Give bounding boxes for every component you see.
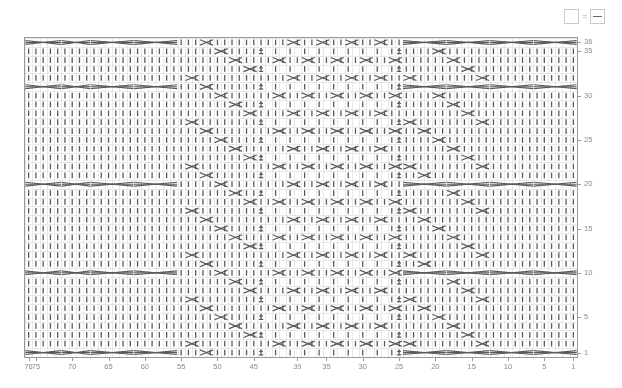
y-axis-tick bbox=[578, 273, 581, 274]
x-axis-label: 30 bbox=[359, 363, 367, 371]
x-axis-label: 60 bbox=[141, 363, 149, 371]
x-axis-tick bbox=[145, 358, 146, 361]
y-axis-tick bbox=[578, 317, 581, 318]
y-axis-label: 1 bbox=[584, 349, 588, 357]
x-axis-tick bbox=[297, 358, 298, 361]
knitting-chart[interactable] bbox=[24, 37, 578, 358]
x-axis-tick bbox=[472, 358, 473, 361]
y-axis-tick bbox=[578, 353, 581, 354]
x-axis-tick bbox=[181, 358, 182, 361]
x-axis-tick bbox=[544, 358, 545, 361]
y-axis-label: 10 bbox=[584, 269, 592, 277]
x-axis-label: 55 bbox=[177, 363, 185, 371]
x-axis-tick bbox=[435, 358, 436, 361]
x-axis-label: 5 bbox=[542, 363, 546, 371]
x-axis-label: 65 bbox=[104, 363, 112, 371]
x-axis-label: 76 bbox=[24, 363, 32, 371]
x-axis-label: 75 bbox=[32, 363, 40, 371]
y-axis-tick bbox=[578, 42, 581, 43]
y-axis-label: 36 bbox=[584, 39, 592, 47]
x-axis-tick bbox=[573, 358, 574, 361]
x-axis-label: 45 bbox=[250, 363, 258, 371]
square-with-dash-icon bbox=[590, 9, 605, 24]
y-axis-label: 30 bbox=[584, 92, 592, 100]
x-axis-label: 70 bbox=[68, 363, 76, 371]
y-axis-tick bbox=[578, 96, 581, 97]
chart-canvas[interactable] bbox=[25, 38, 577, 357]
y-axis-label: 20 bbox=[584, 180, 592, 188]
y-axis-label: 35 bbox=[584, 48, 592, 56]
x-axis-tick bbox=[217, 358, 218, 361]
x-axis-label: 10 bbox=[504, 363, 512, 371]
y-axis-label: 25 bbox=[584, 136, 592, 144]
x-axis-label: 39 bbox=[293, 363, 301, 371]
x-axis-tick bbox=[399, 358, 400, 361]
x-axis-tick bbox=[254, 358, 255, 361]
x-axis-label: 15 bbox=[468, 363, 476, 371]
y-axis-label: 15 bbox=[584, 225, 592, 233]
x-axis-label: 20 bbox=[431, 363, 439, 371]
x-axis-label: 25 bbox=[395, 363, 403, 371]
x-axis-label: 50 bbox=[213, 363, 221, 371]
y-axis-tick bbox=[578, 140, 581, 141]
x-axis-tick bbox=[363, 358, 364, 361]
y-axis-tick bbox=[578, 51, 581, 52]
x-axis-label: 35 bbox=[322, 363, 330, 371]
legend-equals-label: = bbox=[582, 12, 587, 21]
x-axis-tick bbox=[326, 358, 327, 361]
y-axis-label: 5 bbox=[584, 313, 588, 321]
x-axis-tick bbox=[72, 358, 73, 361]
x-axis-tick bbox=[109, 358, 110, 361]
x-axis-tick bbox=[36, 358, 37, 361]
x-axis-tick bbox=[508, 358, 509, 361]
empty-square-icon bbox=[564, 9, 579, 24]
x-axis-tick bbox=[29, 358, 30, 361]
x-axis-label: 1 bbox=[571, 363, 575, 371]
y-axis-tick bbox=[578, 229, 581, 230]
legend: = bbox=[564, 6, 612, 26]
y-axis-tick bbox=[578, 184, 581, 185]
